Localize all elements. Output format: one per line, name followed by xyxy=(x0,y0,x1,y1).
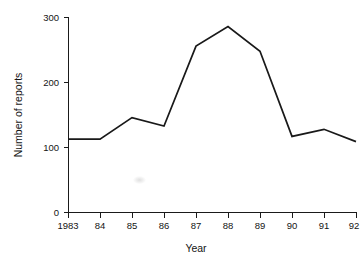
x-axis-title: Year xyxy=(185,242,207,254)
y-tick-label-100: 100 xyxy=(43,142,59,153)
y-tick-label-200: 200 xyxy=(43,77,59,88)
x-tick-label-88: 88 xyxy=(223,220,234,231)
x-tick-label-86: 86 xyxy=(159,220,170,231)
x-tick-label-1983: 1983 xyxy=(57,220,78,231)
y-axis-title: Number of reports xyxy=(12,73,24,158)
x-tick-label-87: 87 xyxy=(191,220,202,231)
y-tick-label-0: 0 xyxy=(54,207,59,218)
x-axis-ticks xyxy=(69,213,357,218)
chart-canvas: 300 200 100 0 1983 84 85 86 87 88 89 90 … xyxy=(0,0,361,263)
x-tick-label-90: 90 xyxy=(287,220,298,231)
x-tick-label-91: 91 xyxy=(319,220,330,231)
y-axis-ticks xyxy=(64,18,69,213)
line-chart: 300 200 100 0 1983 84 85 86 87 88 89 90 … xyxy=(0,0,361,263)
x-tick-label-89: 89 xyxy=(255,220,266,231)
data-series-line xyxy=(68,27,356,142)
x-tick-label-84: 84 xyxy=(95,220,106,231)
x-tick-label-92: 92 xyxy=(349,220,360,231)
x-tick-label-85: 85 xyxy=(127,220,138,231)
y-tick-label-300: 300 xyxy=(43,12,59,23)
